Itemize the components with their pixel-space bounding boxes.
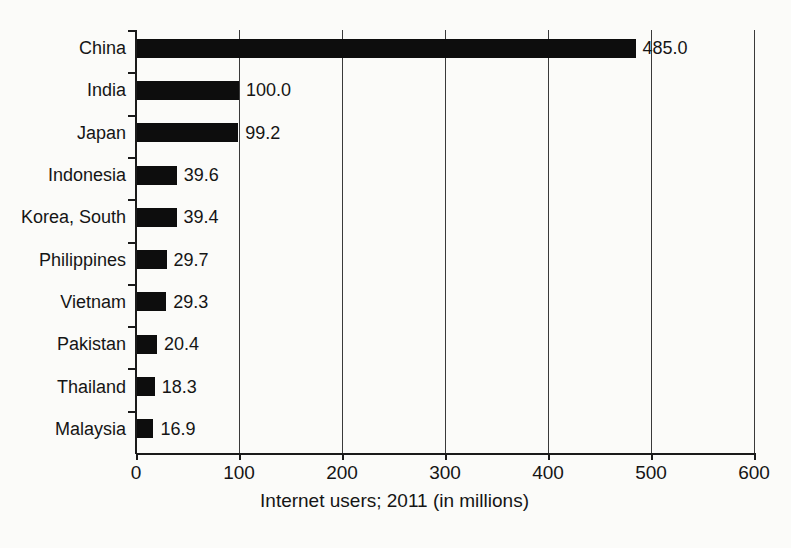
y-tick bbox=[128, 242, 136, 244]
bar-philippines[interactable] bbox=[136, 250, 167, 269]
x-tick-label-300: 300 bbox=[429, 462, 461, 484]
y-tick bbox=[128, 157, 136, 159]
category-label-thailand: Thailand bbox=[0, 377, 126, 397]
bar-row[interactable]: 99.2 bbox=[136, 123, 754, 142]
bar-row[interactable]: 39.4 bbox=[136, 208, 754, 227]
bar-row[interactable]: 39.6 bbox=[136, 166, 754, 185]
x-tick-label-500: 500 bbox=[635, 462, 667, 484]
category-label-india: India bbox=[0, 80, 126, 100]
bar-row[interactable]: 29.3 bbox=[136, 292, 754, 311]
bar-row[interactable]: 485.0 bbox=[136, 39, 754, 58]
bar-value-label: 39.6 bbox=[177, 165, 219, 185]
bar-value-label: 39.4 bbox=[177, 207, 219, 227]
category-label-korea-south: Korea, South bbox=[0, 207, 126, 227]
bar-value-label: 99.2 bbox=[238, 123, 280, 143]
bar-value-label: 29.7 bbox=[167, 250, 209, 270]
bar-row[interactable]: 29.7 bbox=[136, 250, 754, 269]
x-tick-400 bbox=[548, 453, 550, 460]
y-tick bbox=[128, 284, 136, 286]
bar-value-label: 100.0 bbox=[239, 80, 291, 100]
bar-indonesia[interactable] bbox=[136, 166, 177, 185]
y-tick bbox=[128, 199, 136, 201]
bar-india[interactable] bbox=[136, 81, 239, 100]
bar-value-label: 20.4 bbox=[157, 334, 199, 354]
category-label-china: China bbox=[0, 38, 126, 58]
x-tick-300 bbox=[445, 453, 447, 460]
x-tick-label-100: 100 bbox=[223, 462, 255, 484]
bar-chart: 485.0100.099.239.639.429.729.320.418.316… bbox=[0, 0, 791, 548]
bar-value-label: 18.3 bbox=[155, 377, 197, 397]
bar-value-label: 29.3 bbox=[166, 292, 208, 312]
bar-value-label: 16.9 bbox=[153, 419, 195, 439]
x-tick-0 bbox=[136, 453, 138, 460]
bar-row[interactable]: 16.9 bbox=[136, 419, 754, 438]
gridline-600 bbox=[754, 30, 755, 453]
category-label-pakistan: Pakistan bbox=[0, 334, 126, 354]
bar-pakistan[interactable] bbox=[136, 335, 157, 354]
x-tick-100 bbox=[239, 453, 241, 460]
y-tick bbox=[128, 72, 136, 74]
x-tick-label-0: 0 bbox=[131, 462, 142, 484]
bar-korea-south[interactable] bbox=[136, 208, 177, 227]
plot-area: 485.0100.099.239.639.429.729.320.418.316… bbox=[136, 30, 754, 453]
category-label-indonesia: Indonesia bbox=[0, 165, 126, 185]
bar-thailand[interactable] bbox=[136, 377, 155, 396]
bar-row[interactable]: 100.0 bbox=[136, 81, 754, 100]
y-tick bbox=[128, 368, 136, 370]
category-label-vietnam: Vietnam bbox=[0, 292, 126, 312]
x-tick-200 bbox=[342, 453, 344, 460]
y-tick bbox=[128, 30, 136, 32]
category-label-japan: Japan bbox=[0, 123, 126, 143]
category-label-malaysia: Malaysia bbox=[0, 419, 126, 439]
x-tick-500 bbox=[651, 453, 653, 460]
y-tick bbox=[128, 326, 136, 328]
x-tick-600 bbox=[754, 453, 756, 460]
bar-row[interactable]: 20.4 bbox=[136, 335, 754, 354]
bar-value-label: 485.0 bbox=[636, 38, 688, 58]
x-tick-label-400: 400 bbox=[532, 462, 564, 484]
x-axis-title: Internet users; 2011 (in millions) bbox=[0, 489, 791, 513]
x-tick-label-600: 600 bbox=[738, 462, 770, 484]
bar-malaysia[interactable] bbox=[136, 419, 153, 438]
y-tick bbox=[128, 411, 136, 413]
category-label-philippines: Philippines bbox=[0, 250, 126, 270]
bar-china[interactable] bbox=[136, 39, 636, 58]
x-tick-label-200: 200 bbox=[326, 462, 358, 484]
bar-vietnam[interactable] bbox=[136, 292, 166, 311]
x-axis-title-text: Internet users; 2011 (in millions) bbox=[260, 489, 529, 513]
bar-japan[interactable] bbox=[136, 123, 238, 142]
bar-row[interactable]: 18.3 bbox=[136, 377, 754, 396]
y-tick bbox=[128, 115, 136, 117]
